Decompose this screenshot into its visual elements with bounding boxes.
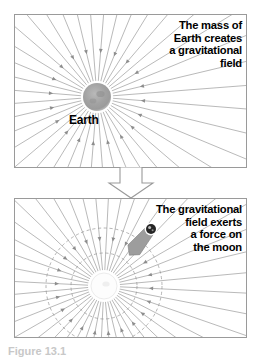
callout-bottom-line-4: the moon: [110, 241, 242, 254]
callout-top-line-1: The mass of: [112, 19, 242, 32]
callout-bottom-line-1: The gravitational: [110, 203, 242, 216]
panel-moon-force: The gravitational field exerts a force o…: [14, 198, 247, 338]
figure-caption: Figure 13.1: [8, 345, 188, 357]
callout-top-line-4: field: [112, 57, 242, 70]
callout-top-line-2: Earth creates: [112, 32, 242, 45]
gravitational-field-figure: Earth The mass of Earth creates a gravit…: [0, 0, 259, 358]
callout-top-text: The mass of Earth creates a gravitationa…: [112, 19, 242, 69]
callout-bottom-line-3: a force on: [110, 228, 242, 241]
down-block-arrow-icon: [106, 167, 156, 199]
callout-bottom-line-2: field exerts: [110, 216, 242, 229]
panel-earth-field: Earth The mass of Earth creates a gravit…: [14, 14, 247, 168]
callout-top-line-3: a gravitational: [112, 44, 242, 57]
callout-bottom-text: The gravitational field exerts a force o…: [110, 203, 242, 253]
earth-label: Earth: [69, 113, 99, 127]
